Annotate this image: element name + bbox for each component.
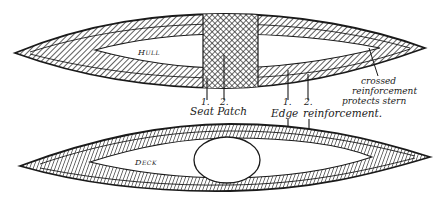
deck-label: Deck: [134, 158, 157, 167]
edge-num-1: 1.: [283, 97, 292, 107]
seat-patch: [203, 12, 258, 90]
stern-note-line-3: protects stern: [342, 96, 406, 106]
cockpit-opening: [194, 137, 260, 183]
hull-label: Hull: [137, 48, 160, 57]
stern-note-line-1: crossed: [361, 76, 396, 86]
edge-label-a: Edge: [270, 107, 298, 119]
edge-num-2: 2.: [303, 97, 313, 107]
kayak-reinforcement-diagram: Hull 1. 2. Seat Patch 1. 2. Edge reinfor…: [0, 0, 447, 209]
seat-patch-label: Seat Patch: [190, 105, 247, 117]
stern-note-line-2: reinforcement: [352, 86, 417, 96]
edge-label-b: reinforcement.: [303, 107, 382, 119]
deck-panel: Deck: [20, 124, 430, 191]
